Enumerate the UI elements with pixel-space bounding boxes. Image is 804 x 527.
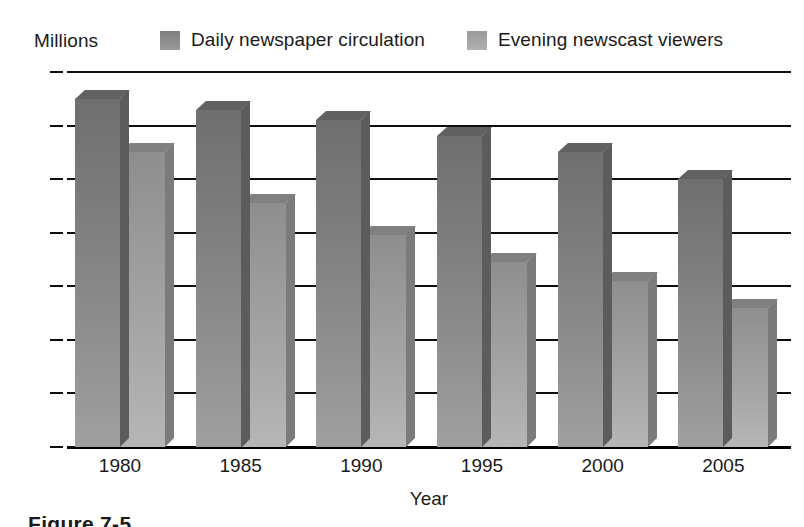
y-axis-tick-mark-0 [50,446,63,448]
legend-label-series-1: Daily newspaper circulation [191,29,425,51]
bar-2005-series-1 [678,179,723,447]
chart-legend: Daily newspaper circulation Evening news… [160,29,723,51]
x-axis-tick-label-1980: 1980 [63,455,177,477]
bar-face [437,136,482,447]
bar-side-3d [120,90,129,447]
bar-side-3d [768,299,777,447]
bar-1990-series-1 [316,120,361,447]
y-axis-tick-mark-70 [50,71,63,73]
bar-1985-series-1 [196,110,241,448]
x-axis-tick-label-1985: 1985 [184,455,298,477]
figure-bar-chart: Millions Daily newspaper circulation Eve… [0,0,804,527]
bar-side-3d [527,253,536,447]
bar-face [75,99,120,447]
bar-top-3d [196,101,251,110]
figure-caption: Figure 7-5 [28,512,131,527]
y-axis-tick-mark-50 [50,178,63,180]
legend-swatch-icon-series-2 [467,31,487,50]
plot-area: 010203040506070 198019851990199520002005… [67,72,791,447]
bar-face [196,110,241,448]
bar-group-2000 [558,72,658,447]
x-axis-tick-label-1995: 1995 [425,455,539,477]
y-axis-tick-mark-10 [50,392,63,394]
bar-1980-series-1 [75,99,120,447]
legend-label-series-2: Evening newscast viewers [498,29,723,51]
legend-item-evening-newscast-viewers: Evening newscast viewers [467,29,723,51]
y-axis-units-label: Millions [34,30,98,52]
bars-layer [67,72,791,447]
bar-top-3d [75,90,130,99]
bar-side-3d [723,170,732,447]
bar-group-1980 [75,72,175,447]
bar-group-1985 [196,72,296,447]
bar-side-3d [241,101,250,448]
bar-2000-series-1 [558,152,603,447]
y-axis-tick-mark-40 [50,232,63,234]
y-axis-tick-mark-60 [50,125,63,127]
bar-face [558,152,603,447]
x-axis-title: Year [67,488,791,510]
x-axis-tick-label-2000: 2000 [546,455,660,477]
x-axis-tick-label-1990: 1990 [304,455,418,477]
bar-side-3d [482,127,491,447]
legend-swatch-icon-series-1 [160,31,180,50]
bar-1995-series-1 [437,136,482,447]
bar-face [678,179,723,447]
bar-group-1990 [316,72,416,447]
bar-side-3d [406,226,415,447]
bar-group-1995 [437,72,537,447]
bar-side-3d [648,272,657,447]
bar-side-3d [361,111,370,447]
y-axis-tick-mark-30 [50,285,63,287]
x-axis-tick-label-2005: 2005 [666,455,780,477]
bar-side-3d [165,143,174,447]
legend-item-daily-newspaper-circulation: Daily newspaper circulation [160,29,425,51]
y-axis-tick-mark-20 [50,339,63,341]
bar-face [316,120,361,447]
bar-side-3d [603,143,612,447]
bar-side-3d [286,194,295,447]
bar-group-2005 [678,72,778,447]
